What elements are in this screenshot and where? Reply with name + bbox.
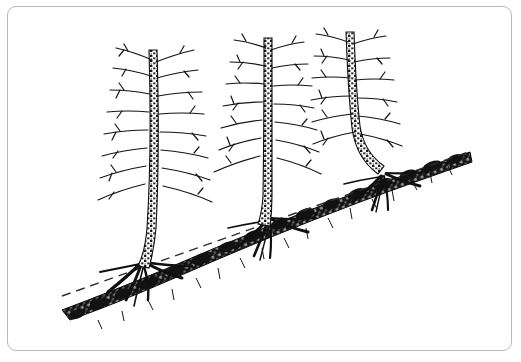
tree-right xyxy=(311,28,428,212)
trunk-left xyxy=(138,50,158,268)
tree-middle xyxy=(214,34,321,260)
figure-root xyxy=(0,0,521,362)
trunk-right xyxy=(346,32,384,174)
illustration-canvas xyxy=(0,0,521,362)
